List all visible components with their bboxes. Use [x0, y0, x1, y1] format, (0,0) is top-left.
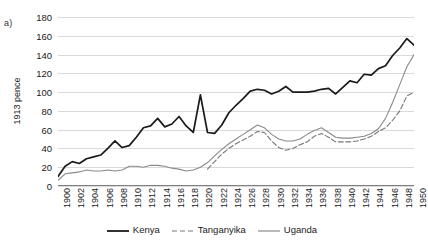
legend-item-tanganyika[interactable]: Tanganyika	[172, 224, 246, 235]
x-tick-label: 1906	[105, 188, 115, 208]
x-tick-label: 1942	[361, 188, 371, 208]
x-tick-label: 1902	[76, 188, 86, 208]
x-tick-label: 1932	[290, 188, 300, 208]
legend-swatch-tanganyika-icon	[172, 226, 194, 234]
y-tick-label: 140	[36, 49, 52, 60]
x-tick-label: 1950	[418, 188, 428, 208]
y-tick-label: 100	[36, 87, 52, 98]
series-line-kenya	[58, 39, 414, 177]
x-tick-label: 1928	[261, 188, 271, 208]
y-tick-label: 180	[36, 12, 52, 23]
x-tick-label: 1914	[162, 188, 172, 208]
y-tick-label: 60	[41, 124, 52, 135]
y-tick-label: 0	[47, 181, 52, 192]
x-tick-label: 1940	[347, 188, 357, 208]
series-line-uganda	[58, 55, 414, 181]
legend-item-uganda[interactable]: Uganda	[258, 224, 317, 235]
y-tick-label: 40	[41, 143, 52, 154]
legend-label: Uganda	[284, 224, 317, 235]
x-tick-label: 1936	[318, 188, 328, 208]
y-tick-label: 160	[36, 30, 52, 41]
x-tick-label: 1910	[133, 188, 143, 208]
x-tick-label: 1922	[219, 188, 229, 208]
legend-swatch-kenya-icon	[107, 226, 129, 234]
chart-legend: KenyaTanganyikaUganda	[0, 224, 424, 235]
x-axis-tick-labels: 1900190219041906190819101912191419161918…	[58, 188, 414, 222]
x-tick-label: 1924	[233, 188, 243, 208]
legend-label: Tanganyika	[198, 224, 246, 235]
series-layer	[58, 17, 414, 186]
x-tick-label: 1938	[333, 188, 343, 208]
x-tick-label: 1926	[247, 188, 257, 208]
legend-swatch-uganda-icon	[258, 226, 280, 234]
y-tick-label: 20	[41, 162, 52, 173]
x-tick-label: 1916	[176, 188, 186, 208]
x-tick-label: 1912	[147, 188, 157, 208]
plot-area	[58, 17, 414, 186]
x-tick-label: 1946	[390, 188, 400, 208]
x-tick-label: 1908	[119, 188, 129, 208]
legend-label: Kenya	[133, 224, 160, 235]
x-tick-label: 1944	[375, 188, 385, 208]
x-tick-label: 1904	[90, 188, 100, 208]
y-tick-label: 120	[36, 68, 52, 79]
x-axis-line	[58, 185, 414, 186]
x-tick-label: 1930	[276, 188, 286, 208]
x-tick-label: 1920	[204, 188, 214, 208]
x-tick-label: 1948	[404, 188, 414, 208]
y-tick-label: 80	[41, 105, 52, 116]
legend-item-kenya[interactable]: Kenya	[107, 224, 160, 235]
y-axis-tick-labels: 020406080100120140160180	[0, 17, 54, 186]
x-tick-label: 1918	[190, 188, 200, 208]
x-tick-label: 1934	[304, 188, 314, 208]
x-tick-label: 1900	[62, 188, 72, 208]
gridline	[58, 186, 414, 187]
